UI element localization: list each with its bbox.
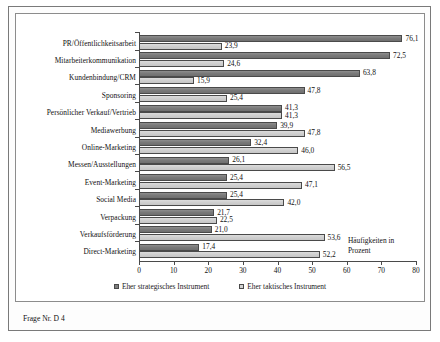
legend-swatch-icon-series1	[114, 284, 119, 289]
bar-series1[interactable]	[139, 209, 214, 216]
legend-label-series1: Eher strategisches Instrument	[122, 282, 209, 291]
bar-series1[interactable]	[139, 122, 277, 129]
bar-series2[interactable]	[139, 77, 194, 84]
y-axis-tick	[135, 206, 139, 207]
bar-value-series2: 41,3	[285, 112, 298, 120]
bar-series1[interactable]	[139, 105, 282, 112]
bar-value-series2: 53,6	[328, 234, 341, 242]
x-axis-tick-label: 0	[127, 266, 151, 275]
x-axis-title: Häufigkeiten in Prozent	[348, 236, 418, 255]
y-axis-tick	[135, 224, 139, 225]
x-axis-tick	[347, 261, 348, 265]
chart-plot-box: PR/Öffentlichkeitsarbeit76,123,9Mitarbei…	[15, 13, 425, 302]
category-label: Sponsoring	[0, 91, 136, 100]
category-label: Persönlicher Verkauf/Vertrieb	[0, 108, 136, 117]
bar-series2[interactable]	[139, 95, 227, 102]
bar-series2[interactable]	[139, 182, 302, 189]
x-axis-tick	[278, 261, 279, 265]
x-axis-tick	[208, 261, 209, 265]
y-axis-tick	[135, 102, 139, 103]
category-label: Online-Marketing	[0, 143, 136, 152]
y-axis-tick	[135, 171, 139, 172]
bar-series1[interactable]	[139, 174, 227, 181]
bar-series1[interactable]	[139, 139, 251, 146]
y-axis-tick	[135, 50, 139, 51]
y-axis-tick	[135, 137, 139, 138]
category-label: Direct-Marketing	[0, 247, 136, 256]
x-axis-tick	[416, 261, 417, 265]
bar-value-series1: 76,1	[405, 35, 418, 43]
bar-value-series2: 23,9	[225, 42, 238, 50]
y-axis-tick	[135, 32, 139, 33]
category-label: Social Media	[0, 195, 136, 204]
bar-series1[interactable]	[139, 35, 402, 42]
legend-entry-strategisch[interactable]: Eher strategisches Instrument	[114, 282, 209, 291]
bar-value-series2: 46,0	[301, 147, 314, 155]
x-axis-tick-label: 10	[162, 266, 186, 275]
bar-value-series1: 25,4	[230, 191, 243, 199]
bar-series2[interactable]	[139, 147, 298, 154]
x-axis-tick-label: 80	[404, 266, 428, 275]
bar-series2[interactable]	[139, 60, 224, 67]
x-axis-tick-label: 40	[266, 266, 290, 275]
bar-series1[interactable]	[139, 244, 199, 251]
bar-value-series1: 39,9	[280, 122, 293, 130]
legend-label-series2: Eher taktisches Instrument	[247, 282, 326, 291]
plot-area: PR/Öffentlichkeitsarbeit76,123,9Mitarbei…	[16, 14, 424, 301]
bar-value-series1: 26,1	[232, 156, 245, 164]
y-axis-tick	[135, 67, 139, 68]
y-axis-tick	[135, 119, 139, 120]
y-axis-tick	[135, 241, 139, 242]
bar-value-series2: 22,5	[220, 216, 233, 224]
bar-value-series2: 42,0	[287, 199, 300, 207]
category-label: Verkaufsförderung	[0, 230, 136, 239]
x-axis-tick	[312, 261, 313, 265]
bar-series1[interactable]	[139, 157, 229, 164]
bar-series2[interactable]	[139, 234, 325, 241]
bar-series1[interactable]	[139, 226, 212, 233]
bar-value-series1: 25,4	[230, 174, 243, 182]
bar-series2[interactable]	[139, 217, 217, 224]
x-axis-tick-label: 20	[196, 266, 220, 275]
bar-series2[interactable]	[139, 199, 284, 206]
y-axis-tick	[135, 84, 139, 85]
bar-series2[interactable]	[139, 112, 282, 119]
bar-value-series1: 63,8	[363, 69, 376, 77]
legend-swatch-icon-series2	[239, 284, 244, 289]
bar-series1[interactable]	[139, 87, 305, 94]
chart-legend: Eher strategisches Instrument Eher takti…	[16, 282, 424, 291]
bar-value-series2: 24,6	[227, 60, 240, 68]
legend-entry-taktisch[interactable]: Eher taktisches Instrument	[239, 282, 326, 291]
bar-series2[interactable]	[139, 130, 305, 137]
bar-value-series2: 52,2	[323, 251, 336, 259]
x-axis-tick-label: 50	[300, 266, 324, 275]
x-axis-tick-label: 60	[335, 266, 359, 275]
bar-value-series2: 47,1	[305, 181, 318, 189]
category-label: Event-Marketing	[0, 178, 136, 187]
category-label: Verpackung	[0, 213, 136, 222]
x-axis-tick	[174, 261, 175, 265]
category-label: Kundenbindung/CRM	[0, 73, 136, 82]
x-axis-tick-label: 70	[369, 266, 393, 275]
x-axis-tick	[139, 261, 140, 265]
y-axis-tick	[135, 154, 139, 155]
bar-value-series1: 32,4	[254, 139, 267, 147]
x-axis-tick	[381, 261, 382, 265]
bar-value-series1: 47,8	[308, 87, 321, 95]
bar-value-series2: 47,8	[308, 129, 321, 137]
figure-caption: Frage Nr. D 4	[23, 314, 65, 323]
category-label: Mitarbeiterkommunikation	[0, 56, 136, 65]
bar-series1[interactable]	[139, 70, 360, 77]
bar-series2[interactable]	[139, 43, 222, 50]
bar-value-series2: 25,4	[230, 94, 243, 102]
bar-value-series1: 21,0	[215, 226, 228, 234]
bar-value-series2: 56,5	[338, 164, 351, 172]
x-axis-tick-label: 30	[231, 266, 255, 275]
bar-series1[interactable]	[139, 52, 390, 59]
bar-series2[interactable]	[139, 164, 335, 171]
category-label: Mediawerbung	[0, 126, 136, 135]
bar-series1[interactable]	[139, 192, 227, 199]
bar-value-series2: 15,9	[197, 77, 210, 85]
category-label: PR/Öffentlichkeitsarbeit	[0, 39, 136, 48]
bar-series2[interactable]	[139, 251, 320, 258]
